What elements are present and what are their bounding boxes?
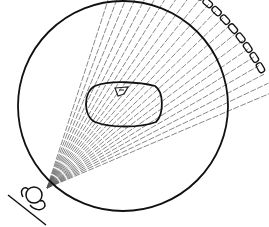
fan-beam-rays: [47, 0, 269, 188]
x-ray-source-icon: [8, 187, 46, 225]
ct-fan-beam-diagram: Fan-beam CT scan geometry: [0, 0, 269, 227]
